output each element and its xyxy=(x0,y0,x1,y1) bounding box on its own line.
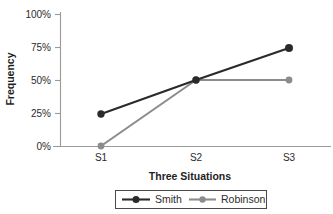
smith-point-s2 xyxy=(192,76,199,83)
legend-swatch-robinson-marker xyxy=(199,196,205,202)
y-tick-label-50: 50% xyxy=(31,75,51,86)
y-tick-label-25: 25% xyxy=(31,108,51,119)
line-chart: 100% 75% 50% 25% 0% S1 S2 S3 Frequency T… xyxy=(0,0,333,214)
legend-label-robinson: Robinson xyxy=(221,193,266,205)
robinson-point-s3 xyxy=(286,77,293,84)
smith-point-s1 xyxy=(97,110,104,117)
x-tick-label-s3: S3 xyxy=(283,152,296,163)
y-tick-label-0: 0% xyxy=(37,141,52,152)
y-tick-label-75: 75% xyxy=(31,42,51,53)
series-robinson xyxy=(98,76,293,149)
y-tick-label-100: 100% xyxy=(25,9,51,20)
y-axis xyxy=(55,12,61,147)
robinson-point-s1 xyxy=(98,143,105,150)
chart-legend: Smith Robinson xyxy=(116,191,267,209)
robinson-line xyxy=(101,80,289,146)
legend-label-smith: Smith xyxy=(155,193,182,205)
x-tick-label-s2: S2 xyxy=(190,152,203,163)
legend-swatch-smith-marker xyxy=(133,196,140,203)
y-axis-title: Frequency xyxy=(4,52,16,105)
x-tick-label-s1: S1 xyxy=(95,152,108,163)
smith-point-s3 xyxy=(285,44,293,52)
x-axis-title: Three Situations xyxy=(149,170,231,182)
chart-canvas: 100% 75% 50% 25% 0% S1 S2 S3 Frequency T… xyxy=(0,0,333,214)
